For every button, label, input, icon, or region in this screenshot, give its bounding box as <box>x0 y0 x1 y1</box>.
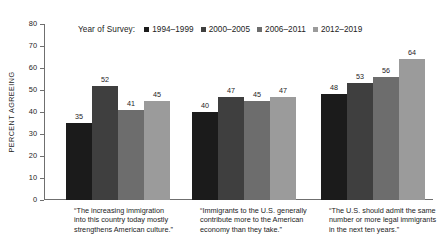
bar[interactable] <box>218 97 244 200</box>
category-label-line: number or more legal immigrants <box>329 215 445 224</box>
bar-slot: 35 <box>66 24 92 200</box>
bar-group: 35524145 <box>66 24 170 200</box>
bar-value-label: 40 <box>192 101 218 110</box>
bar-value-label: 47 <box>270 86 296 95</box>
bar[interactable] <box>270 97 296 200</box>
bar[interactable] <box>244 101 270 200</box>
category-label: “The increasing immigrationinto this cou… <box>74 206 200 234</box>
grouped-bar-chart: Year of Survey: 1994–1999 2000–2005 2006… <box>0 0 445 247</box>
bar-value-label: 48 <box>321 83 347 92</box>
category-label: “The U.S. should admit the samenumber or… <box>329 206 445 234</box>
category-label-line: into this country today mostly <box>74 215 200 224</box>
y-axis-tick: 70 <box>40 46 44 47</box>
bar-value-label: 53 <box>347 72 373 81</box>
y-axis-title: PERCENT AGREEING <box>6 24 18 200</box>
y-axis-tick: 80 <box>40 24 44 25</box>
bar-slot: 47 <box>270 24 296 200</box>
bar-value-label: 64 <box>399 48 425 57</box>
bar-slot: 52 <box>92 24 118 200</box>
y-axis-tick: 10 <box>40 178 44 179</box>
bar-group-bars: 48535664 <box>321 24 425 200</box>
category-label-line: contribute more to the American <box>200 215 326 224</box>
y-axis-tick: 0 <box>40 200 44 201</box>
y-axis-tick-label: 30 <box>29 129 37 138</box>
bar-slot: 53 <box>347 24 373 200</box>
y-axis-line <box>44 24 45 200</box>
bar[interactable] <box>144 101 170 200</box>
bar-value-label: 45 <box>244 90 270 99</box>
bar[interactable] <box>92 86 118 200</box>
y-axis-tick-label: 50 <box>29 85 37 94</box>
bar-value-label: 52 <box>92 75 118 84</box>
bar-group-bars: 35524145 <box>66 24 170 200</box>
y-axis-tick-label: 70 <box>29 41 37 50</box>
bar-value-label: 47 <box>218 86 244 95</box>
category-label-line: “The increasing immigration <box>74 206 200 215</box>
bar-slot: 48 <box>321 24 347 200</box>
bar-slot: 56 <box>373 24 399 200</box>
bar-value-label: 35 <box>66 112 92 121</box>
bar-slot: 64 <box>399 24 425 200</box>
y-axis-tick: 50 <box>40 90 44 91</box>
category-label-line: “Immigrants to the U.S. generally <box>200 206 326 215</box>
bar-value-label: 45 <box>144 90 170 99</box>
bar-slot: 41 <box>118 24 144 200</box>
bar[interactable] <box>399 59 425 200</box>
bar[interactable] <box>321 94 347 200</box>
category-label-line: economy than they take.” <box>200 225 326 234</box>
bar[interactable] <box>118 110 144 200</box>
bar[interactable] <box>373 77 399 200</box>
plot-area: 01020304050607080 3552414540474547485356… <box>44 24 433 200</box>
bar-value-label: 41 <box>118 99 144 108</box>
category-label: “Immigrants to the U.S. generallycontrib… <box>200 206 326 234</box>
y-axis-tick-label: 40 <box>29 107 37 116</box>
y-axis-tick: 60 <box>40 68 44 69</box>
bar-group: 48535664 <box>321 24 425 200</box>
y-axis-tick: 20 <box>40 156 44 157</box>
y-axis-tick-label: 80 <box>29 19 37 28</box>
category-label-line: “The U.S. should admit the same <box>329 206 445 215</box>
bar-value-label: 56 <box>373 66 399 75</box>
bar-slot: 47 <box>218 24 244 200</box>
y-axis-tick-label: 60 <box>29 63 37 72</box>
bar[interactable] <box>66 123 92 200</box>
y-axis-tick: 40 <box>40 112 44 113</box>
category-label-line: in the next ten years.” <box>329 225 445 234</box>
y-axis-tick-label: 10 <box>29 173 37 182</box>
bar[interactable] <box>192 112 218 200</box>
bar-slot: 40 <box>192 24 218 200</box>
category-label-line: strengthens American culture.” <box>74 225 200 234</box>
bar-slot: 45 <box>144 24 170 200</box>
bar-group: 40474547 <box>192 24 296 200</box>
y-axis-tick-label: 20 <box>29 151 37 160</box>
bar-group-bars: 40474547 <box>192 24 296 200</box>
bar[interactable] <box>347 83 373 200</box>
y-axis-tick-label: 0 <box>33 195 37 204</box>
bar-slot: 45 <box>244 24 270 200</box>
y-axis-tick: 30 <box>40 134 44 135</box>
